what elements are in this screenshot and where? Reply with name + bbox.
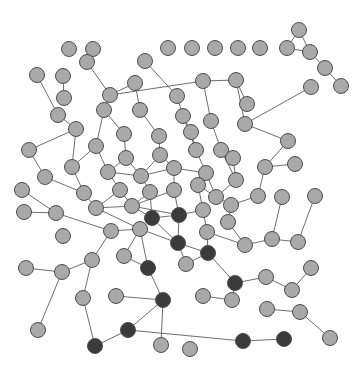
- graph-node-light[interactable]: [251, 189, 266, 204]
- graph-node-light[interactable]: [200, 225, 215, 240]
- graph-node-light[interactable]: [55, 265, 70, 280]
- graph-node-light[interactable]: [31, 323, 46, 338]
- graph-node-light[interactable]: [285, 283, 300, 298]
- graph-node-light[interactable]: [179, 257, 194, 272]
- graph-node-light[interactable]: [318, 61, 333, 76]
- graph-node-light[interactable]: [189, 143, 204, 158]
- graph-node-light[interactable]: [85, 253, 100, 268]
- graph-node-light[interactable]: [80, 55, 95, 70]
- graph-node-light[interactable]: [281, 134, 296, 149]
- graph-node-light[interactable]: [191, 178, 206, 193]
- graph-node-light[interactable]: [204, 114, 219, 129]
- graph-node-light[interactable]: [19, 261, 34, 276]
- graph-node-light[interactable]: [77, 186, 92, 201]
- graph-node-light[interactable]: [154, 338, 169, 353]
- graph-node-light[interactable]: [69, 122, 84, 137]
- graph-node-light[interactable]: [288, 157, 303, 172]
- graph-node-light[interactable]: [49, 206, 64, 221]
- graph-node-light[interactable]: [65, 160, 80, 175]
- graph-node-light[interactable]: [303, 45, 318, 60]
- graph-node-light[interactable]: [117, 249, 132, 264]
- graph-node-light[interactable]: [57, 91, 72, 106]
- graph-node-dark[interactable]: [88, 339, 103, 354]
- graph-node-light[interactable]: [56, 69, 71, 84]
- graph-node-dark[interactable]: [277, 332, 292, 347]
- graph-node-light[interactable]: [253, 41, 268, 56]
- graph-node-light[interactable]: [89, 201, 104, 216]
- graph-node-light[interactable]: [30, 68, 45, 83]
- graph-node-light[interactable]: [231, 41, 246, 56]
- graph-node-light[interactable]: [224, 198, 239, 213]
- graph-node-light[interactable]: [133, 222, 148, 237]
- graph-node-light[interactable]: [238, 117, 253, 132]
- graph-node-light[interactable]: [334, 79, 349, 94]
- graph-node-light[interactable]: [196, 203, 211, 218]
- graph-node-light[interactable]: [51, 108, 66, 123]
- graph-node-light[interactable]: [133, 103, 148, 118]
- graph-node-light[interactable]: [125, 199, 140, 214]
- graph-node-light[interactable]: [143, 185, 158, 200]
- graph-node-light[interactable]: [167, 161, 182, 176]
- graph-node-light[interactable]: [153, 148, 168, 163]
- graph-node-light[interactable]: [323, 331, 338, 346]
- graph-node-light[interactable]: [113, 183, 128, 198]
- graph-node-light[interactable]: [38, 170, 53, 185]
- graph-node-light[interactable]: [104, 224, 119, 239]
- graph-node-light[interactable]: [109, 289, 124, 304]
- graph-node-light[interactable]: [183, 342, 198, 357]
- graph-node-light[interactable]: [208, 41, 223, 56]
- graph-node-light[interactable]: [280, 41, 295, 56]
- graph-node-light[interactable]: [103, 88, 118, 103]
- graph-node-light[interactable]: [101, 165, 116, 180]
- graph-node-dark[interactable]: [172, 208, 187, 223]
- graph-node-light[interactable]: [176, 109, 191, 124]
- graph-node-dark[interactable]: [201, 246, 216, 261]
- graph-node-light[interactable]: [209, 190, 224, 205]
- graph-node-dark[interactable]: [156, 293, 171, 308]
- graph-node-light[interactable]: [62, 42, 77, 57]
- graph-node-light[interactable]: [258, 160, 273, 175]
- graph-node-light[interactable]: [128, 76, 143, 91]
- graph-node-light[interactable]: [291, 235, 306, 250]
- graph-node-light[interactable]: [167, 183, 182, 198]
- graph-node-light[interactable]: [275, 190, 290, 205]
- graph-node-light[interactable]: [240, 97, 255, 112]
- graph-node-light[interactable]: [265, 232, 280, 247]
- graph-node-light[interactable]: [293, 305, 308, 320]
- graph-node-light[interactable]: [15, 183, 30, 198]
- graph-node-light[interactable]: [304, 80, 319, 95]
- graph-node-dark[interactable]: [141, 261, 156, 276]
- graph-node-light[interactable]: [76, 291, 91, 306]
- graph-node-light[interactable]: [259, 270, 274, 285]
- graph-node-light[interactable]: [225, 293, 240, 308]
- graph-node-light[interactable]: [226, 151, 241, 166]
- graph-node-light[interactable]: [152, 129, 167, 144]
- graph-node-light[interactable]: [221, 215, 236, 230]
- graph-node-light[interactable]: [170, 89, 185, 104]
- graph-node-light[interactable]: [138, 54, 153, 69]
- graph-node-light[interactable]: [196, 289, 211, 304]
- graph-node-light[interactable]: [17, 205, 32, 220]
- graph-node-light[interactable]: [89, 139, 104, 154]
- graph-node-light[interactable]: [119, 151, 134, 166]
- graph-node-light[interactable]: [185, 41, 200, 56]
- graph-node-light[interactable]: [56, 229, 71, 244]
- graph-node-light[interactable]: [238, 238, 253, 253]
- graph-node-light[interactable]: [97, 103, 112, 118]
- graph-node-dark[interactable]: [171, 236, 186, 251]
- graph-node-light[interactable]: [292, 23, 307, 38]
- graph-node-light[interactable]: [308, 189, 323, 204]
- graph-node-dark[interactable]: [121, 323, 136, 338]
- graph-node-light[interactable]: [117, 127, 132, 142]
- graph-node-light[interactable]: [22, 143, 37, 158]
- graph-node-light[interactable]: [196, 74, 211, 89]
- graph-node-light[interactable]: [134, 169, 149, 184]
- graph-node-light[interactable]: [229, 73, 244, 88]
- graph-node-light[interactable]: [184, 125, 199, 140]
- graph-node-light[interactable]: [229, 173, 244, 188]
- graph-node-dark[interactable]: [145, 211, 160, 226]
- graph-node-dark[interactable]: [228, 276, 243, 291]
- graph-node-light[interactable]: [304, 261, 319, 276]
- graph-node-light[interactable]: [260, 302, 275, 317]
- graph-node-dark[interactable]: [236, 334, 251, 349]
